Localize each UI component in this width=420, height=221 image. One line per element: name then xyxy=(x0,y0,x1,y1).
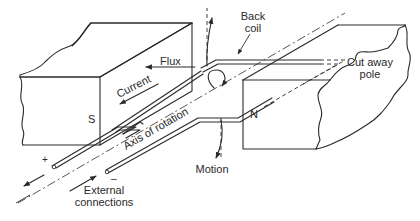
motor-diagram: Flux Back coil Current Cut away pole S N… xyxy=(0,0,420,221)
motion-arrow-down-icon xyxy=(216,118,222,158)
cut-away-pole-label: Cut away xyxy=(347,56,393,68)
rotation-arrow-icon xyxy=(208,70,225,88)
cut-away-pole-label-line2: pole xyxy=(360,68,381,80)
back-coil-label-line2: coil xyxy=(245,22,262,34)
plus-terminal-label: + xyxy=(42,154,48,165)
motion-label: Motion xyxy=(195,163,228,175)
back-coil-leader-arrow-icon xyxy=(238,34,250,54)
north-pole-label: N xyxy=(250,108,258,120)
north-pole-block xyxy=(243,25,410,149)
minus-terminal-label: – xyxy=(111,173,117,184)
flux-label: Flux xyxy=(160,55,181,67)
back-coil-label: Back xyxy=(241,10,266,22)
external-connections-label-line2: connections xyxy=(75,196,134,208)
motion-arrow-up-icon xyxy=(207,8,212,66)
external-connections-label: External xyxy=(84,184,124,196)
south-pole-label: S xyxy=(88,113,95,125)
current-label: Current xyxy=(114,72,152,99)
